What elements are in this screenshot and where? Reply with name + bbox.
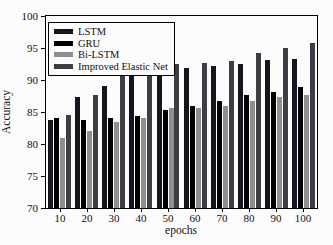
x-tick-label-100: 100 xyxy=(288,212,318,224)
bar-gru-epoch-40 xyxy=(135,116,140,208)
y-tick-100 xyxy=(41,16,45,17)
bar-gru-epoch-60 xyxy=(190,106,195,208)
bar-bi-lstm-epoch-90 xyxy=(277,97,282,208)
bar-improved-elastic-net-epoch-50 xyxy=(174,64,179,208)
legend-label: GRU xyxy=(78,38,100,49)
bar-gru-epoch-100 xyxy=(298,87,303,208)
bar-improved-elastic-net-epoch-90 xyxy=(283,48,288,208)
legend-swatch-icon xyxy=(54,64,73,69)
bar-gru-epoch-10 xyxy=(54,118,59,208)
legend-item-bi-lstm: Bi-LSTM xyxy=(54,49,168,61)
bar-improved-elastic-net-epoch-60 xyxy=(202,63,207,208)
bar-improved-elastic-net-epoch-80 xyxy=(256,53,261,208)
x-tick-label-90: 90 xyxy=(261,212,291,224)
bar-improved-elastic-net-epoch-30 xyxy=(120,76,125,209)
bar-bi-lstm-epoch-100 xyxy=(304,95,309,208)
bar-lstm-epoch-60 xyxy=(184,68,189,208)
legend-label: LSTM xyxy=(78,26,106,37)
bar-lstm-epoch-70 xyxy=(211,66,216,208)
x-tick-label-10: 10 xyxy=(45,212,75,224)
y-tick-label-80: 80 xyxy=(12,138,38,150)
bar-lstm-epoch-90 xyxy=(265,60,270,208)
bar-lstm-epoch-10 xyxy=(48,120,53,208)
x-tick-label-40: 40 xyxy=(126,212,156,224)
y-tick-70 xyxy=(41,208,45,209)
legend-swatch-icon xyxy=(54,29,73,34)
x-tick-label-60: 60 xyxy=(180,212,210,224)
bar-improved-elastic-net-epoch-10 xyxy=(66,115,71,208)
bar-improved-elastic-net-epoch-100 xyxy=(310,43,315,208)
legend-swatch-icon xyxy=(54,41,73,46)
legend-item-improved-elastic-net: Improved Elastic Net xyxy=(54,61,168,73)
bar-bi-lstm-epoch-40 xyxy=(141,118,146,208)
y-tick-75 xyxy=(41,176,45,177)
bar-improved-elastic-net-epoch-70 xyxy=(229,61,234,208)
y-axis-title: Accuracy xyxy=(0,72,12,152)
y-tick-95 xyxy=(41,48,45,49)
bar-gru-epoch-50 xyxy=(163,110,168,208)
legend-item-gru: GRU xyxy=(54,38,168,50)
bar-lstm-epoch-80 xyxy=(238,64,243,208)
bar-bi-lstm-epoch-30 xyxy=(114,122,119,208)
bar-bi-lstm-epoch-80 xyxy=(250,101,255,209)
bar-bi-lstm-epoch-10 xyxy=(60,138,65,208)
bar-lstm-epoch-100 xyxy=(292,59,297,208)
y-tick-label-70: 70 xyxy=(12,202,38,214)
legend: LSTMGRUBi-LSTMImproved Elastic Net xyxy=(48,22,175,76)
bar-gru-epoch-90 xyxy=(271,92,276,209)
x-tick-label-80: 80 xyxy=(234,212,264,224)
x-tick-label-30: 30 xyxy=(99,212,129,224)
y-tick-label-95: 95 xyxy=(12,42,38,54)
bar-lstm-epoch-30 xyxy=(102,86,107,208)
bar-improved-elastic-net-epoch-40 xyxy=(147,67,152,208)
y-tick-80 xyxy=(41,144,45,145)
legend-swatch-icon xyxy=(54,52,73,57)
bar-gru-epoch-20 xyxy=(81,120,86,208)
bar-lstm-epoch-20 xyxy=(75,97,80,208)
y-tick-90 xyxy=(41,80,45,81)
x-axis-title: epochs xyxy=(121,224,241,236)
x-tick-label-70: 70 xyxy=(207,212,237,224)
plot-area: LSTMGRUBi-LSTMImproved Elastic Net xyxy=(45,15,318,209)
y-tick-85 xyxy=(41,112,45,113)
bar-chart-figure: Accuracy LSTMGRUBi-LSTMImproved Elastic … xyxy=(0,0,333,245)
bar-bi-lstm-epoch-70 xyxy=(223,106,228,208)
legend-label: Improved Elastic Net xyxy=(78,61,168,72)
bar-gru-epoch-30 xyxy=(108,118,113,208)
legend-label: Bi-LSTM xyxy=(78,49,119,60)
bar-gru-epoch-70 xyxy=(217,101,222,208)
bar-bi-lstm-epoch-60 xyxy=(196,108,201,208)
bar-lstm-epoch-50 xyxy=(157,71,162,208)
bar-bi-lstm-epoch-20 xyxy=(87,131,92,208)
y-tick-label-90: 90 xyxy=(12,74,38,86)
x-tick-label-50: 50 xyxy=(153,212,183,224)
x-tick-label-20: 20 xyxy=(72,212,102,224)
legend-item-lstm: LSTM xyxy=(54,26,168,38)
bar-bi-lstm-epoch-50 xyxy=(169,108,174,208)
y-tick-label-85: 85 xyxy=(12,106,38,118)
bar-lstm-epoch-40 xyxy=(129,76,134,208)
bar-gru-epoch-80 xyxy=(244,95,249,208)
bar-improved-elastic-net-epoch-20 xyxy=(93,95,98,208)
y-tick-label-100: 100 xyxy=(12,10,38,22)
y-tick-label-75: 75 xyxy=(12,170,38,182)
